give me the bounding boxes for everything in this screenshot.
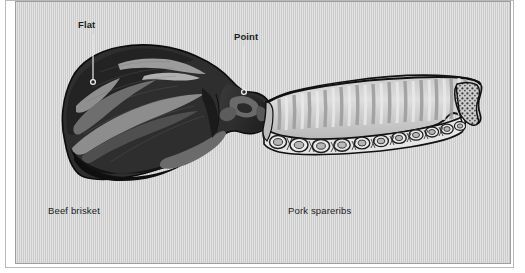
callout-label-point: Point	[234, 31, 258, 42]
figure-inner-panel: Flat Point Beef brisket Pork spareribs	[15, 1, 511, 264]
caption-pork-spareribs: Pork spareribs	[288, 205, 351, 216]
callout-label-flat: Flat	[78, 19, 95, 30]
meat-cuts-illustration	[16, 2, 511, 264]
figure-root: Flat Point Beef brisket Pork spareribs	[0, 0, 525, 273]
beef-brisket-illustration	[62, 45, 272, 181]
pork-spareribs-illustration	[263, 75, 481, 154]
caption-beef-brisket: Beef brisket	[48, 205, 100, 216]
figure-outer-frame: Flat Point Beef brisket Pork spareribs	[5, 0, 514, 268]
